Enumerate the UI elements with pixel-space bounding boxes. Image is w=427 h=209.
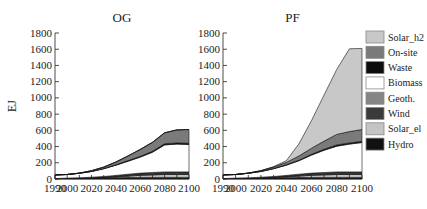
legend-swatch: [366, 92, 384, 104]
y-tick-label: 800: [36, 108, 53, 120]
legend-label: On-site: [388, 47, 418, 58]
legend-item-solar-h2: Solar_h2: [366, 31, 424, 43]
y-tick-label: 400: [36, 140, 53, 152]
x-tick-label: 2020: [250, 182, 273, 194]
legend-swatch: [366, 108, 384, 120]
x-tick-label: 2000: [225, 182, 248, 194]
legend-item-on-site: On-site: [366, 46, 418, 58]
y-tick-label: 1800: [198, 27, 221, 39]
legend-label: Geoth.: [388, 93, 415, 104]
y-tick-label: 600: [204, 124, 221, 136]
legend-label: Wind: [388, 108, 410, 119]
x-tick-label: 2040: [275, 182, 298, 194]
x-tick-label: 2080: [326, 182, 349, 194]
y-tick-label: 800: [204, 108, 221, 120]
x-tick-label: 2000: [56, 182, 79, 194]
y-tick-label: 1000: [30, 91, 53, 103]
y-tick-label: 1600: [30, 43, 53, 55]
y-tick-label: 1000: [198, 91, 221, 103]
x-tick-label: 2020: [81, 182, 104, 194]
panel-og: 0200400600800100012001400160018001990200…: [5, 10, 201, 194]
x-tick-label: 2060: [129, 182, 152, 194]
legend-swatch: [366, 77, 384, 89]
legend-swatch: [366, 46, 384, 58]
y-axis-label: EJ: [5, 100, 19, 112]
legend-label: Solar_el: [388, 123, 422, 134]
x-tick-label: 2100: [351, 182, 374, 194]
legend-label: Waste: [388, 62, 413, 73]
y-tick-label: 1400: [30, 59, 53, 71]
y-tick-label: 600: [36, 124, 53, 136]
y-tick-label: 1600: [198, 43, 221, 55]
x-tick-label: 2060: [300, 182, 323, 194]
y-tick-label: 1400: [198, 59, 221, 71]
legend-label: Solar_h2: [388, 32, 424, 43]
legend-swatch: [366, 123, 384, 135]
stacked-area-chart: 0200400600800100012001400160018001990200…: [0, 0, 427, 209]
y-tick-label: 400: [204, 140, 221, 152]
legend-item-biomass: Biomass: [366, 77, 423, 89]
x-tick-label: 2100: [178, 182, 201, 194]
x-tick-label: 2080: [154, 182, 177, 194]
legend-swatch: [366, 31, 384, 43]
panel-pf: 0200400600800100012001400160018001990200…: [198, 10, 374, 194]
legend-item-solar-el: Solar_el: [366, 123, 422, 135]
legend-item-wind: Wind: [366, 108, 410, 120]
legend-label: Biomass: [388, 77, 423, 88]
legend-item-hydro: Hydro: [366, 138, 414, 150]
legend-swatch: [366, 62, 384, 74]
chart-figure: 0200400600800100012001400160018001990200…: [0, 0, 427, 209]
panel-title: OG: [113, 10, 132, 25]
y-tick-label: 1800: [30, 27, 53, 39]
y-tick-label: 200: [204, 156, 221, 168]
x-tick-label: 2040: [105, 182, 128, 194]
legend-item-waste: Waste: [366, 62, 413, 74]
legend-swatch: [366, 138, 384, 150]
panel-title: PF: [285, 10, 299, 25]
legend-item-geoth-: Geoth.: [366, 92, 415, 104]
y-tick-label: 200: [36, 156, 53, 168]
y-tick-label: 1200: [30, 75, 53, 87]
legend: Solar_h2On-siteWasteBiomassGeoth.WindSol…: [366, 31, 424, 150]
y-tick-label: 1200: [198, 75, 221, 87]
legend-label: Hydro: [388, 139, 414, 150]
